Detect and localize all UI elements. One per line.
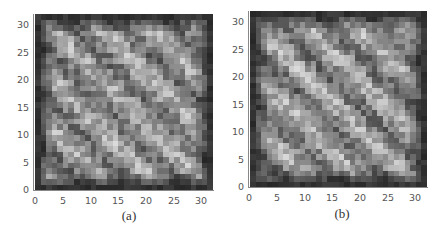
x-tick-a-5: 5 xyxy=(53,196,73,206)
x-axis-b xyxy=(248,187,428,188)
y-tick-a-20: 20 xyxy=(11,75,29,85)
y-tick-a-5: 5 xyxy=(11,158,29,168)
y-tick-b-25: 25 xyxy=(226,45,244,55)
x-tick-b-30: 30 xyxy=(405,193,425,203)
y-tick-b-15: 15 xyxy=(226,100,244,110)
heatmap-panel-b: 30 25 20 15 10 5 0 0 5 10 15 20 25 30 (b… xyxy=(222,0,444,232)
y-tick-a-15: 15 xyxy=(11,103,29,113)
x-tick-a-0: 0 xyxy=(25,196,45,206)
y-axis-b xyxy=(248,11,249,188)
x-tick-b-5: 5 xyxy=(267,193,287,203)
x-tick-b-15: 15 xyxy=(322,193,342,203)
heatmap-panel-a: 30 25 20 15 10 5 0 0 5 10 15 20 25 30 (a… xyxy=(0,0,222,232)
x-tick-b-0: 0 xyxy=(239,193,259,203)
x-axis-a xyxy=(33,190,214,191)
y-tick-b-10: 10 xyxy=(226,127,244,137)
x-tick-a-20: 20 xyxy=(136,196,156,206)
x-tick-b-20: 20 xyxy=(350,193,370,203)
y-tick-a-25: 25 xyxy=(11,48,29,58)
x-tick-a-15: 15 xyxy=(108,196,128,206)
y-tick-b-5: 5 xyxy=(226,155,244,165)
heatmap-grid-b xyxy=(250,11,427,187)
y-tick-b-30: 30 xyxy=(226,17,244,27)
x-tick-a-30: 30 xyxy=(191,196,211,206)
y-tick-b-20: 20 xyxy=(226,72,244,82)
x-tick-b-25: 25 xyxy=(378,193,398,203)
y-axis-a xyxy=(33,14,34,191)
y-tick-a-30: 30 xyxy=(11,20,29,30)
x-tick-a-10: 10 xyxy=(81,196,101,206)
heatmap-grid-a xyxy=(35,14,213,190)
caption-a: (a) xyxy=(109,208,149,224)
y-tick-a-10: 10 xyxy=(11,130,29,140)
y-tick-a-0: 0 xyxy=(11,185,29,195)
y-tick-b-0: 0 xyxy=(226,182,244,192)
caption-b: (b) xyxy=(322,206,362,222)
x-tick-b-10: 10 xyxy=(295,193,315,203)
x-tick-a-25: 25 xyxy=(164,196,184,206)
